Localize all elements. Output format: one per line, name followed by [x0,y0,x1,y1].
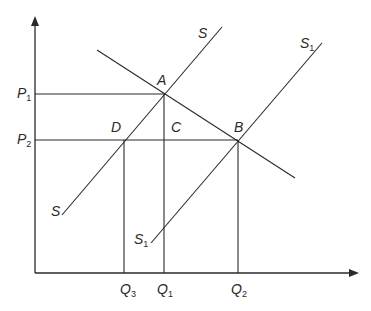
demand-curve [97,50,295,178]
x-axis-arrow-icon [349,269,359,277]
point-b-label: B [234,119,243,135]
point-c-label: C [171,119,182,135]
supply-demand-diagram: S S S1 S1 A B C D P1 P2 Q3 Q1 Q2 [0,0,371,311]
supply-curve-s1 [151,43,322,243]
quantity-label-q1: Q1 [157,281,173,299]
label-s-top: S [198,25,208,41]
price-label-p2: P2 [17,131,31,149]
quantity-label-q2: Q2 [231,281,247,299]
axes [31,16,359,277]
quantity-label-q3: Q3 [120,281,136,299]
y-axis-arrow-icon [31,16,39,26]
supply-curve-s [62,27,222,215]
label-s-bottom: S [51,203,61,219]
price-label-p1: P1 [17,85,31,103]
label-s1-bottom: S1 [134,231,148,249]
label-s1-top: S1 [300,35,314,53]
point-d-label: D [111,119,121,135]
point-a-label: A [156,72,166,88]
